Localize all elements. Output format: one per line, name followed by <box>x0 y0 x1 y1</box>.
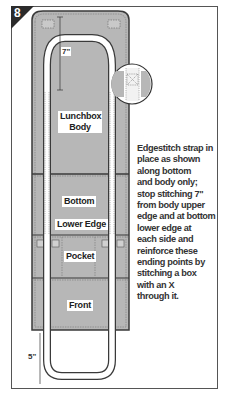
caption-line: Edgestitch strap in <box>137 143 219 154</box>
callout-magnifier <box>111 64 152 104</box>
panel-label-pocket: Pocket <box>64 251 96 262</box>
panel-label-line: Body <box>60 122 100 133</box>
caption-line: place as shown <box>137 154 219 165</box>
caption-line: from body upper <box>137 200 219 211</box>
caption-line: and body only; <box>137 177 219 188</box>
caption-line: reinforce these <box>137 246 219 257</box>
caption-line: lower edge at <box>137 223 219 234</box>
panel-label-lunchbox-body: Lunchbox Body <box>58 111 102 133</box>
panel-label-bottom: Bottom <box>62 196 96 207</box>
panel-label-lower-edge: Lower Edge <box>55 219 108 230</box>
caption-line: with an X <box>137 280 219 291</box>
caption-line: through it. <box>137 291 219 302</box>
panel-label-front: Front <box>67 300 93 311</box>
caption-line: stitching a box <box>137 268 219 279</box>
caption-line: edge and at bottom <box>137 211 219 222</box>
caption-line: stop stitching 7" <box>137 189 219 200</box>
dimension-label-5in: 5" <box>28 352 36 361</box>
instruction-caption: Edgestitch strap in place as shown along… <box>137 143 219 303</box>
caption-line: ending points by <box>137 257 219 268</box>
dimension-label-7in: 7" <box>61 47 71 56</box>
caption-line: along bottom <box>137 166 219 177</box>
caption-line: each side and <box>137 234 219 245</box>
panel-label-line: Lunchbox <box>60 111 100 122</box>
step-number: 8 <box>14 6 21 20</box>
